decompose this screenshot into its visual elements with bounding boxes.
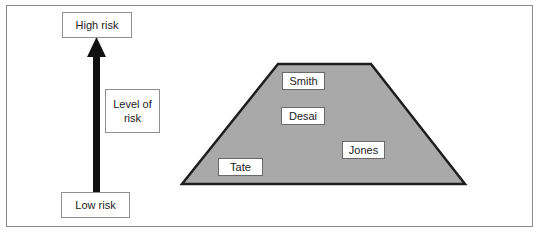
high-risk-label: High risk — [62, 12, 132, 38]
person-name: Jones — [349, 143, 378, 157]
low-risk-label: Low risk — [61, 192, 130, 218]
person-box-jones: Jones — [342, 141, 385, 159]
up-arrow-icon — [87, 37, 106, 192]
level-of-risk-label: Level of risk — [105, 89, 160, 133]
person-name: Tate — [230, 160, 251, 174]
level-of-risk-text: Level of risk — [112, 97, 153, 125]
person-name: Smith — [289, 74, 317, 88]
low-risk-text: Low risk — [75, 198, 115, 212]
person-box-tate: Tate — [218, 158, 263, 176]
high-risk-text: High risk — [76, 18, 119, 32]
person-box-desai: Desai — [281, 107, 325, 125]
person-name: Desai — [289, 109, 317, 123]
person-box-smith: Smith — [282, 72, 325, 90]
